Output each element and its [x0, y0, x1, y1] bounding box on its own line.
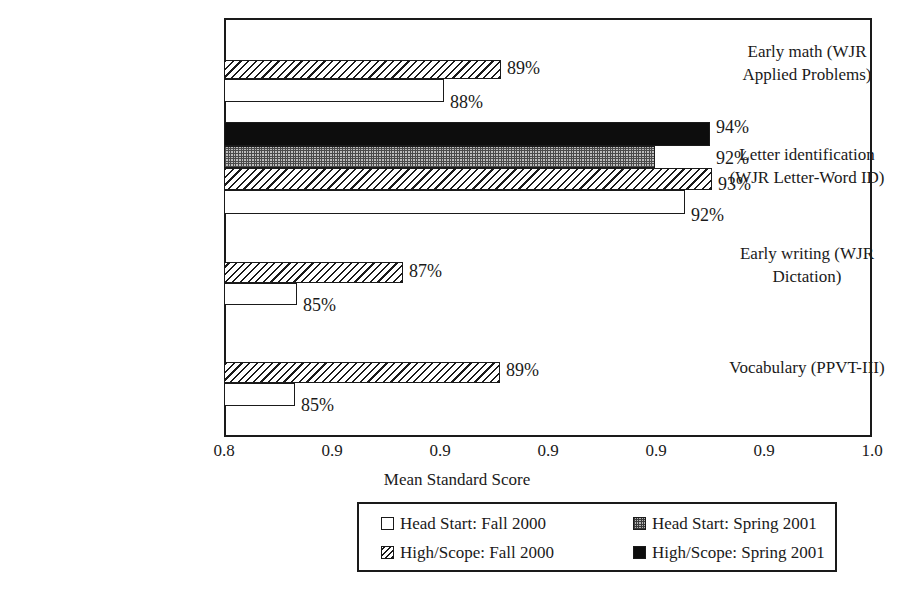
bar-vocab-head-fall-value-label: 85% [301, 396, 334, 414]
bar-letter-head-fall [224, 190, 685, 214]
category-label-early-writing: Early writing (WJR Dictation) [700, 242, 914, 288]
x-tick-label-6: 1.0 [842, 441, 902, 461]
category-label-line: Dictation) [700, 265, 914, 288]
x-tick-label-5: 0.9 [734, 441, 794, 461]
legend-swatch-black-icon [633, 546, 646, 559]
bar-write-hs-fall [224, 262, 403, 283]
bar-letter-hs-fall-value-label: 93% [718, 175, 751, 193]
bar-math-hs-spring-value-label: 89% [507, 59, 540, 77]
legend-label: Head Start: Fall 2000 [400, 515, 546, 532]
legend-swatch-hatch-icon [381, 546, 394, 559]
category-label-vocabulary: Vocabulary (PPVT-III) [700, 356, 914, 379]
x-tick-label-1: 0.9 [302, 441, 362, 461]
legend-item-high-scope-fall-2000[interactable]: High/Scope: Fall 2000 [381, 544, 633, 561]
category-label-early-math: Early math (WJR Applied Problems) [700, 40, 914, 86]
bar-letter-head-fall-value-label: 92% [691, 206, 724, 224]
x-tick-label-2: 0.9 [410, 441, 470, 461]
bar-write-hs-fall-value-label: 87% [409, 262, 442, 280]
legend-swatch-white-icon [381, 517, 394, 530]
bar-letter-head-spr [224, 146, 655, 168]
x-tick-label-3: 0.9 [518, 441, 578, 461]
category-label-line: Vocabulary (PPVT-III) [700, 356, 914, 379]
bar-chart: Early math (WJR Applied Problems) Letter… [0, 0, 914, 600]
bar-math-hs-spring [224, 60, 501, 79]
legend-label: High/Scope: Fall 2000 [400, 544, 554, 561]
bar-vocab-hs-fall-value-label: 89% [506, 361, 539, 379]
x-tick-label-4: 0.9 [626, 441, 686, 461]
bar-math-head-fall-value-label: 88% [450, 93, 483, 111]
bar-letter-head-spr-value-label: 92% [716, 149, 749, 167]
bar-letter-hs-spr-value-label: 94% [716, 118, 749, 136]
legend: Head Start: Fall 2000Head Start: Spring … [357, 502, 837, 572]
bar-write-head-fall-value-label: 85% [303, 296, 336, 314]
legend-item-head-start-fall-2000[interactable]: Head Start: Fall 2000 [381, 515, 633, 532]
legend-item-head-start-spring-2001[interactable]: Head Start: Spring 2001 [633, 515, 861, 532]
bar-write-head-fall [224, 283, 297, 305]
legend-label: Head Start: Spring 2001 [652, 515, 817, 532]
bar-letter-hs-spr [224, 122, 710, 146]
x-tick-label-0: 0.8 [194, 441, 254, 461]
category-label-line: Applied Problems) [700, 63, 914, 86]
legend-swatch-check-icon [633, 517, 646, 530]
category-label-line: Early writing (WJR [700, 242, 914, 265]
bar-math-head-fall [224, 79, 444, 102]
bar-vocab-head-fall [224, 383, 295, 406]
legend-label: High/Scope: Spring 2001 [652, 544, 825, 561]
x-axis-title: Mean Standard Score [0, 470, 914, 490]
bar-vocab-hs-fall [224, 362, 500, 383]
bar-letter-hs-fall [224, 168, 712, 190]
legend-item-high-scope-spring-2001[interactable]: High/Scope: Spring 2001 [633, 544, 861, 561]
category-label-line: Early math (WJR [700, 40, 914, 63]
